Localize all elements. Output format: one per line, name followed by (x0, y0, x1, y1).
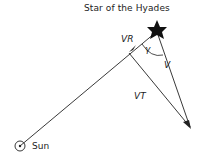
label-gamma: γ (145, 44, 150, 54)
label-vr: VR (121, 34, 133, 44)
label-v: V (164, 60, 170, 70)
diagram-title: Star of the Hyades (84, 3, 170, 13)
vr-arrowhead-icon (129, 45, 136, 52)
v-line (157, 32, 190, 127)
label-vt: VT (134, 91, 146, 101)
star-icon (147, 20, 167, 39)
label-sun: Sun (32, 141, 49, 151)
vt-line (129, 53, 190, 127)
diagram-canvas (0, 0, 201, 162)
sun-star-line (20, 33, 155, 146)
sun-icon-dot (19, 145, 21, 147)
v-arrowhead-icon (183, 120, 191, 129)
